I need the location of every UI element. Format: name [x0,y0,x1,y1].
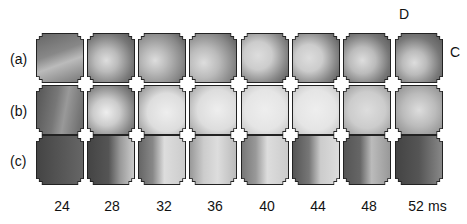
activation-map-image [344,34,390,82]
activation-map-tile [189,85,237,135]
activation-map-tile [395,135,443,185]
activation-map-tile [36,85,84,135]
activation-map-image [293,34,339,82]
activation-map-image [139,86,185,134]
activation-map-image [88,136,134,184]
activation-map-image [37,86,83,134]
activation-map-image [344,136,390,184]
activation-map-image [190,34,236,82]
time-label: 44 [294,198,342,214]
row-label-a: (a) [10,51,27,67]
time-label: 24 [38,198,86,214]
time-label: 32 [140,198,188,214]
activation-map-image [242,34,288,82]
activation-map-tile [138,33,186,83]
activation-map-image [396,136,442,184]
activation-map-tile [138,85,186,135]
activation-map-tile [343,135,391,185]
activation-map-tile [138,135,186,185]
activation-map-tile [189,33,237,83]
activation-map-tile [292,85,340,135]
activation-map-image [37,34,83,82]
time-label: 36 [191,198,239,214]
activation-map-tile [292,33,340,83]
activation-map-image [139,136,185,184]
time-label: 48 [345,198,393,214]
activation-map-image [242,136,288,184]
activation-map-tile [343,33,391,83]
activation-map-tile [87,135,135,185]
time-unit-label: ms [428,198,447,214]
activation-map-tile [36,33,84,83]
orientation-label-top: D [399,6,409,22]
row-label-b: (b) [10,103,27,119]
activation-map-image [396,34,442,82]
activation-map-tile [395,85,443,135]
activation-map-tile [343,85,391,135]
activation-map-image [242,86,288,134]
activation-map-tile [241,85,289,135]
activation-map-image [293,136,339,184]
activation-map-tile [241,135,289,185]
activation-map-tile [241,33,289,83]
row-label-c: (c) [10,153,26,169]
activation-map-tile [189,135,237,185]
activation-map-image [344,86,390,134]
activation-map-image [293,86,339,134]
activation-map-image [396,86,442,134]
orientation-label-right: C [450,44,460,60]
activation-map-tile [395,33,443,83]
activation-map-tile [87,33,135,83]
activation-map-image [190,136,236,184]
activation-map-image [190,86,236,134]
activation-map-tile [292,135,340,185]
activation-map-image [88,34,134,82]
time-label: 40 [243,198,291,214]
time-label: 28 [88,198,136,214]
activation-map-tile [36,135,84,185]
activation-map-tile [87,85,135,135]
activation-map-image [37,136,83,184]
activation-map-image [139,34,185,82]
activation-map-image [88,86,134,134]
